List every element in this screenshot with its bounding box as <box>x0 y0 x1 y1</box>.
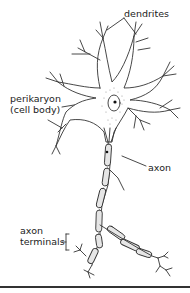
label-cell-body: (cell body) <box>10 105 60 115</box>
label-dendrites: dendrites <box>124 9 169 19</box>
myelin-segment <box>96 210 103 232</box>
label-axon-terminals-line2: terminals <box>20 237 65 247</box>
bottom-rule-divider <box>0 286 190 288</box>
myelin-segment <box>96 188 107 209</box>
myelin-segment <box>135 248 152 259</box>
neuron-diagram <box>0 0 190 293</box>
soma-outline <box>56 36 170 146</box>
label-axon-terminals-line1: axon <box>20 226 43 236</box>
label-axon: axon <box>148 163 171 173</box>
label-perikaryon: perikaryon <box>10 94 61 104</box>
axon-collateral <box>110 170 124 190</box>
axon-leader <box>122 156 146 166</box>
myelin-segment <box>104 144 112 166</box>
myelin-segment <box>102 168 110 187</box>
myelin-segment <box>87 247 99 264</box>
myelin-segment <box>95 234 103 249</box>
nucleolus <box>113 100 116 103</box>
dendrites-leader <box>107 18 136 34</box>
